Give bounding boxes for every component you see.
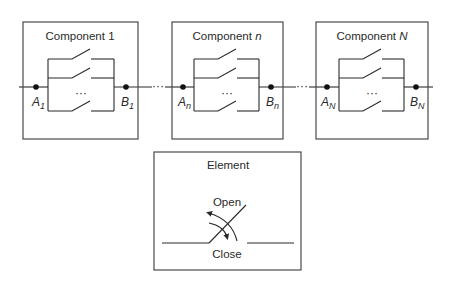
parallel-switch-bank [194, 49, 259, 111]
component-N: Component N ··· AN BN [316, 22, 428, 139]
series-parallel-switch-diagram: ··· ··· Component 1 ··· A1 B1 Component … [0, 0, 449, 284]
between-ellipsis-1: ··· [152, 79, 164, 93]
terminal-a-label: AN [320, 95, 336, 111]
component-n: Component n ··· An Bn [172, 22, 283, 139]
switch-element-symbol [162, 205, 294, 243]
terminal-b-node [123, 84, 129, 90]
close-arrow-icon [209, 223, 227, 237]
parallel-switch-bank [339, 49, 404, 111]
component-1: Component 1 ··· A1 B1 [23, 22, 138, 139]
open-label: Open [213, 196, 241, 208]
element-legend-title: Element [207, 159, 250, 171]
switch-ellipsis: ··· [221, 86, 233, 100]
terminal-a-label: An [177, 95, 191, 111]
terminal-a-node [324, 84, 330, 90]
terminal-a-node [33, 84, 39, 90]
terminal-b-label: Bn [266, 95, 279, 111]
terminal-a-node [180, 84, 186, 90]
element-legend: Element Open Close [154, 152, 301, 270]
component-1-title: Component 1 [45, 30, 114, 42]
terminal-b-label: B1 [121, 95, 134, 111]
terminal-b-node [413, 84, 419, 90]
terminal-b-node [268, 84, 274, 90]
parallel-switch-bank [48, 49, 114, 111]
switch-ellipsis: ··· [366, 86, 378, 100]
terminal-b-label: BN [410, 95, 425, 111]
switch-ellipsis: ··· [75, 86, 87, 100]
open-arrow-icon [209, 213, 237, 241]
close-label: Close [212, 248, 241, 260]
component-n-title: Component n [192, 30, 261, 42]
terminal-a-label: A1 [31, 95, 45, 111]
between-ellipsis-2: ··· [296, 79, 308, 93]
component-N-title: Component N [337, 30, 409, 42]
